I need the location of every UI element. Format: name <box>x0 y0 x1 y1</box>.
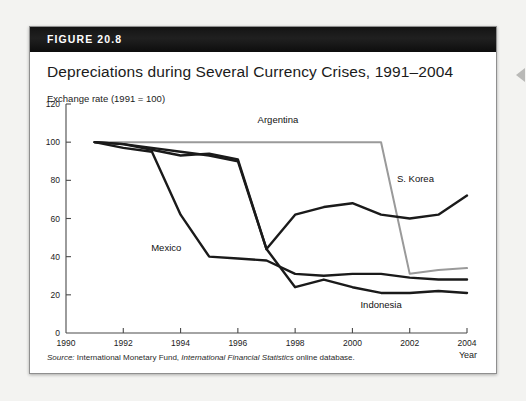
series-label-s-korea: S. Korea <box>397 173 435 184</box>
line-chart: 0204060801001201990199219941996199820002… <box>30 27 498 375</box>
y-axis-tick-label: 20 <box>51 290 61 300</box>
series-line-argentina <box>95 142 467 274</box>
page-edge-arrow-icon <box>516 68 525 82</box>
series-label-indonesia: Indonesia <box>360 299 402 310</box>
y-axis-tick-label: 80 <box>51 175 61 185</box>
x-axis-tick-label: 1990 <box>57 338 76 348</box>
x-axis-tick-label: 1992 <box>114 338 133 348</box>
x-axis-tick-label: 2000 <box>343 338 362 348</box>
source-publication-title: International Financial Statistics <box>181 353 294 362</box>
series-label-argentina: Argentina <box>258 114 299 125</box>
y-axis-tick-label: 40 <box>51 252 61 262</box>
source-text-2: online database. <box>294 353 355 362</box>
x-axis-tick-label: 2002 <box>400 338 419 348</box>
source-text-1: International Monetary Fund, <box>75 353 182 362</box>
source-prefix: Source: <box>47 353 75 362</box>
x-axis-tick-label: 1994 <box>171 338 190 348</box>
series-label-mexico: Mexico <box>151 242 181 253</box>
y-axis-tick-label: 100 <box>46 137 60 147</box>
y-axis-tick-label: 60 <box>51 214 61 224</box>
x-axis-name: Year <box>459 350 477 360</box>
y-axis-tick-label: 120 <box>46 99 60 109</box>
series-line-s-korea <box>95 142 467 249</box>
y-axis-tick-label: 0 <box>55 328 60 338</box>
x-axis-tick-label: 1998 <box>286 338 305 348</box>
x-axis-tick-label: 1996 <box>228 338 247 348</box>
figure-card: FIGURE 20.8 Depreciations during Several… <box>29 26 497 374</box>
series-line-mexico <box>95 142 467 279</box>
x-axis-tick-label: 2004 <box>458 338 477 348</box>
source-note: Source: International Monetary Fund, Int… <box>47 353 355 362</box>
chart-plot-area: 0204060801001201990199219941996199820002… <box>30 27 498 375</box>
